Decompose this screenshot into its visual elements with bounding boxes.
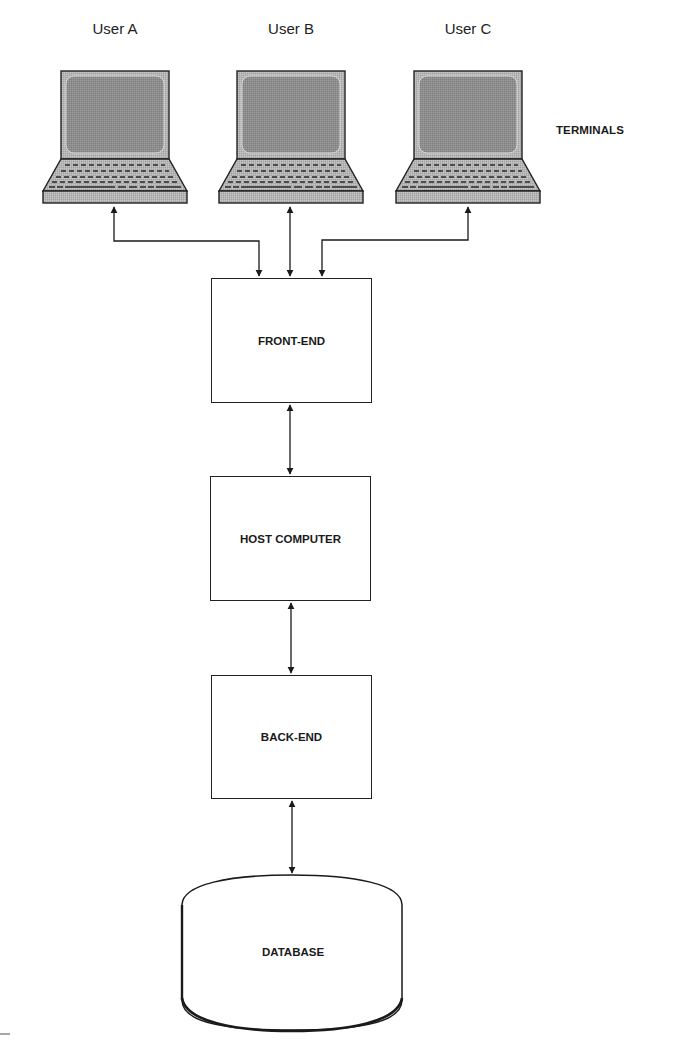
user-c-label: User C	[445, 20, 492, 37]
diagram-canvas: User A User B User C TERMINALS FRONT-END…	[0, 0, 686, 1060]
database-label: DATABASE	[262, 946, 324, 958]
back-end-label: BACK-END	[261, 731, 322, 743]
laptop-icon-user-b	[219, 71, 363, 203]
connector-user-a-front-end	[114, 207, 259, 276]
laptop-icon-user-c	[396, 71, 540, 203]
back-end-box: BACK-END	[211, 675, 372, 799]
host-computer-label: HOST COMPUTER	[240, 533, 341, 545]
user-a-label: User A	[92, 20, 137, 37]
user-b-label: User B	[268, 20, 314, 37]
terminals-label: TERMINALS	[556, 124, 624, 136]
front-end-label: FRONT-END	[258, 335, 325, 347]
laptop-icon-user-a	[43, 71, 187, 203]
front-end-box: FRONT-END	[211, 278, 372, 403]
connector-user-c-front-end	[322, 207, 468, 276]
host-computer-box: HOST COMPUTER	[210, 476, 371, 601]
